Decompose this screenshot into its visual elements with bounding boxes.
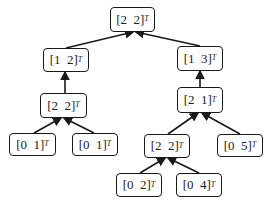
node-root: [2 2]T xyxy=(110,7,155,32)
edge-n7-n4 xyxy=(168,113,198,134)
edge-n10-n7 xyxy=(168,158,199,173)
node-left-leaf-1: [0 1]T xyxy=(9,133,56,156)
edge-n6-n3 xyxy=(64,118,94,133)
edge-n2-n0 xyxy=(136,32,200,46)
node-left-l1: [1 2]T xyxy=(43,48,89,72)
node-left-leaf-2: [0 1]T xyxy=(72,133,118,156)
node-left-l2: [2 2]T xyxy=(40,93,87,118)
node-right-l1: [1 3]T xyxy=(177,46,223,71)
node-right-l3: [2 2]T xyxy=(144,134,190,158)
edge-n5-n3 xyxy=(34,118,61,133)
node-right-leaf-3: [0 5]T xyxy=(217,134,263,157)
node-right-leaf-1: [0 2]T xyxy=(116,173,162,197)
vector-tree-diagram: [2 2]T [1 2]T [1 3]T [2 2]T [2 1]T [0 1]… xyxy=(0,0,271,206)
edge-n1-n0 xyxy=(66,32,133,48)
node-right-leaf-2: [0 4]T xyxy=(176,173,222,197)
node-right-l2: [2 1]T xyxy=(177,87,223,113)
edge-n9-n7 xyxy=(140,158,165,173)
edge-n8-n4 xyxy=(202,113,240,134)
